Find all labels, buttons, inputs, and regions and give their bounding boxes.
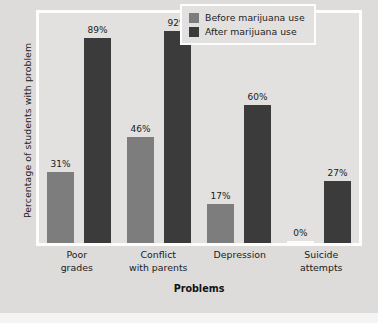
bar [164,31,191,243]
bar-group: 46%92% [119,13,199,243]
bar-item: 92% [164,13,191,243]
x-tick-label-line: Suicide [281,249,363,262]
chart-figure: Percentage of students with problem 31%8… [0,0,378,323]
bar-value-label: 46% [130,124,150,135]
bar-value-label: 17% [210,191,230,202]
bar-group: 17%60% [199,13,279,243]
legend-label-before: Before marijuana use [205,12,305,23]
x-tick-label: Poorgrades [36,249,118,274]
x-tick-label-line: Depression [199,249,281,262]
bar-groups: 31%89%46%92%17%60%0%27% [39,13,359,243]
bar-group: 31%89% [39,13,119,243]
legend-item: Before marijuana use [189,12,305,23]
bar-item: 17% [207,13,234,243]
x-tick-label: Suicideattempts [281,249,363,274]
bar-value-label: 60% [247,92,267,103]
page-edge [0,313,378,323]
bar [287,241,314,243]
bar-value-label: 27% [327,168,347,179]
x-tick-label: Conflictwith parents [118,249,200,274]
bar-group: 0%27% [279,13,359,243]
bar [324,181,351,243]
x-tick-label-line: with parents [118,262,200,275]
bar-item: 60% [244,13,271,243]
bar [244,105,271,243]
chart-legend: Before marijuana use After marijuana use [180,4,316,45]
x-axis-title: Problems [36,283,362,294]
bar-value-label: 31% [50,159,70,170]
plot-frame: 31%89%46%92%17%60%0%27% [36,10,362,246]
x-tick-label-line: grades [36,262,118,275]
bar-item: 31% [47,13,74,243]
bar-item: 89% [84,13,111,243]
x-axis-tick-labels: PoorgradesConflictwith parentsDepression… [36,249,362,274]
bar-item: 0% [287,13,314,243]
bar-value-label: 0% [293,228,307,239]
legend-item: After marijuana use [189,26,305,37]
y-axis-title: Percentage of students with problem [22,11,33,251]
bar [47,172,74,243]
x-tick-label-line: Poor [36,249,118,262]
legend-label-after: After marijuana use [205,26,297,37]
bar [207,204,234,243]
x-tick-label-line: Conflict [118,249,200,262]
legend-swatch-after-icon [189,27,199,37]
bar-value-label: 89% [87,25,107,36]
bar-item: 46% [127,13,154,243]
legend-swatch-before-icon [189,13,199,23]
bar [84,38,111,243]
x-tick-label-line: attempts [281,262,363,275]
bar-item: 27% [324,13,351,243]
x-tick-label: Depression [199,249,281,274]
plot-area: 31%89%46%92%17%60%0%27% [39,13,359,243]
bar [127,137,154,243]
